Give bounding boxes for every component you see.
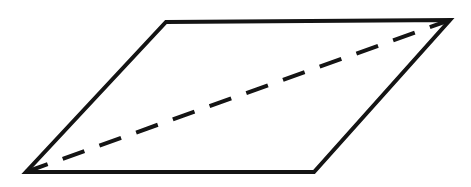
parallelogram-diagram (0, 0, 471, 187)
parallelogram-outline (26, 20, 450, 172)
figure-canvas (0, 0, 471, 187)
